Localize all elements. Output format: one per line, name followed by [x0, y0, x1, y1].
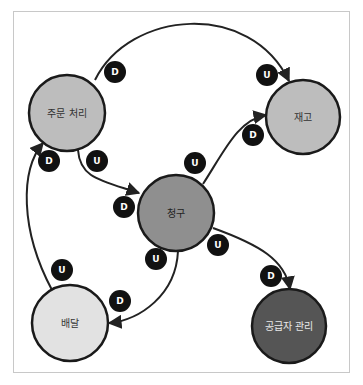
downstream-badge: D — [242, 124, 264, 146]
edge-billing-to-delivery — [109, 251, 178, 323]
context-map-diagram: 주문 처리 재고 청구 배달 공급자 관리 D U D U U D D U U … — [0, 0, 363, 385]
node-label: 공급자 관리 — [265, 321, 313, 332]
upstream-badge: U — [207, 234, 229, 256]
svg-text:D: D — [120, 202, 127, 212]
node-supplier[interactable]: 공급자 관리 — [252, 289, 326, 363]
svg-text:U: U — [214, 240, 221, 250]
svg-text:U: U — [58, 265, 65, 275]
svg-text:D: D — [45, 156, 52, 166]
node-label: 주문 처리 — [47, 108, 86, 119]
upstream-badge: U — [184, 152, 206, 174]
svg-text:U: U — [152, 254, 159, 264]
node-delivery[interactable]: 배달 — [32, 285, 108, 361]
svg-text:U: U — [263, 70, 270, 80]
upstream-badge: U — [51, 259, 73, 281]
svg-text:D: D — [267, 271, 274, 281]
upstream-badge: U — [86, 150, 108, 172]
node-label: 청구 — [167, 208, 185, 219]
node-label: 재고 — [294, 112, 312, 123]
upstream-badge: U — [145, 248, 167, 270]
node-billing[interactable]: 청구 — [138, 175, 214, 251]
downstream-badge: D — [104, 61, 126, 83]
downstream-badge: D — [38, 150, 60, 172]
downstream-badge: D — [113, 196, 135, 218]
upstream-badge: U — [256, 64, 278, 86]
svg-text:D: D — [249, 130, 256, 140]
node-label: 배달 — [61, 318, 79, 329]
downstream-badge: D — [109, 290, 131, 312]
svg-text:U: U — [191, 158, 198, 168]
svg-text:U: U — [93, 156, 100, 166]
node-inventory[interactable]: 재고 — [266, 80, 340, 154]
node-order[interactable]: 주문 처리 — [29, 75, 105, 151]
downstream-badge: D — [260, 265, 282, 287]
svg-text:D: D — [116, 296, 123, 306]
svg-text:D: D — [111, 67, 118, 77]
